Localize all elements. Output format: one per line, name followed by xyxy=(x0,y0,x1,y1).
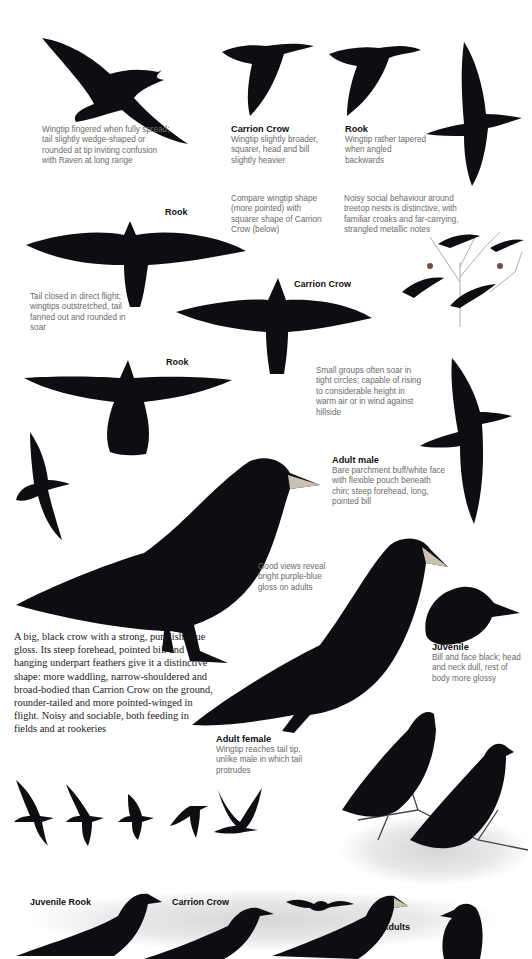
caption-text: Wingtip slightly broader, squarer, head … xyxy=(231,135,318,165)
caption-title: Rook xyxy=(345,124,427,135)
caption-small-groups: Small groups often soar in tight circles… xyxy=(316,366,422,418)
caption-rook-tapered: Rook Wingtip rather tapered when angled … xyxy=(345,124,427,166)
rook-flying-vertical-illustration xyxy=(424,40,524,188)
caption-title: Carrion Crow xyxy=(231,124,331,135)
caption-raven-range: Wingtip fingered when fully spread; tail… xyxy=(42,125,172,167)
species-description: A big, black crow with a strong, purplis… xyxy=(14,630,214,736)
caption-adult-male: Adult male Bare parchment buff/white fac… xyxy=(332,455,450,508)
caption-carrion-crow: Carrion Crow Wingtip slightly broader, s… xyxy=(231,124,331,166)
rook-flying-tapered-illustration xyxy=(327,40,422,118)
caption-title: Adult male xyxy=(332,455,450,466)
field-guide-plate: Wingtip fingered when fully spread; tail… xyxy=(0,0,532,959)
caption-text: Small groups often soar in tight circles… xyxy=(316,366,421,417)
carrion-crow-flying-illustration xyxy=(220,38,320,118)
rooks-on-branch-illustration xyxy=(338,700,530,870)
caption-text: Wingtip reaches tail tip, unlike male in… xyxy=(216,745,302,775)
caption-adult-female: Adult female Wingtip reaches tail tip, u… xyxy=(216,734,316,776)
rook-flight-sequence-illustration xyxy=(10,776,265,848)
caption-tail-closed: Tail closed in direct flight; wingtips o… xyxy=(30,292,130,334)
caption-text: Bare parchment buff/white face with flex… xyxy=(332,466,445,506)
caption-text: Wingtip fingered when fully spread; tail… xyxy=(42,125,169,165)
caption-text: Tail closed in direct flight; wingtips o… xyxy=(30,292,126,332)
caption-text: Wingtip rather tapered when angled backw… xyxy=(345,135,426,165)
caption-title: Adult female xyxy=(216,734,316,745)
rookery-treetop-illustration xyxy=(400,222,528,327)
bottom-comparison-row-illustration xyxy=(14,890,524,959)
